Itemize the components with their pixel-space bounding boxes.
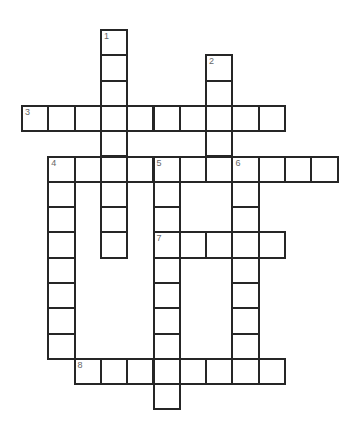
crossword-cell[interactable] <box>179 105 207 132</box>
crossword-cell[interactable] <box>231 257 259 284</box>
crossword-cell[interactable] <box>74 156 102 183</box>
crossword-cell[interactable] <box>47 282 75 309</box>
crossword-cell[interactable] <box>205 80 233 107</box>
crossword-cell[interactable] <box>126 105 154 132</box>
crossword-cell[interactable] <box>179 231 207 258</box>
crossword-cell[interactable] <box>100 206 128 233</box>
crossword-cell[interactable] <box>310 156 338 183</box>
crossword-cell[interactable] <box>126 156 154 183</box>
crossword-cell[interactable]: 2 <box>205 54 233 81</box>
crossword-cell[interactable]: 4 <box>47 156 75 183</box>
crossword-cell[interactable] <box>153 307 181 334</box>
crossword-cell[interactable] <box>231 307 259 334</box>
crossword-cell[interactable] <box>126 358 154 385</box>
clue-number: 3 <box>25 107 30 117</box>
crossword-cell[interactable] <box>258 358 286 385</box>
crossword-cell[interactable] <box>205 156 233 183</box>
crossword-cell[interactable] <box>100 54 128 81</box>
crossword-cell[interactable] <box>205 231 233 258</box>
crossword-cell[interactable] <box>47 206 75 233</box>
crossword-cell[interactable] <box>258 231 286 258</box>
crossword-cell[interactable] <box>100 358 128 385</box>
crossword-cell[interactable] <box>205 358 233 385</box>
crossword-cell[interactable] <box>153 333 181 360</box>
crossword-cell[interactable] <box>258 105 286 132</box>
crossword-cell[interactable]: 3 <box>21 105 49 132</box>
clue-number: 8 <box>78 360 83 370</box>
crossword-cell[interactable] <box>153 383 181 410</box>
crossword-cell[interactable] <box>231 105 259 132</box>
crossword-cell[interactable]: 6 <box>231 156 259 183</box>
crossword-cell[interactable] <box>231 333 259 360</box>
clue-number: 7 <box>157 233 162 243</box>
crossword-cell[interactable] <box>153 105 181 132</box>
crossword-cell[interactable]: 8 <box>74 358 102 385</box>
crossword-cell[interactable] <box>231 231 259 258</box>
crossword-cell[interactable] <box>47 105 75 132</box>
crossword-cell[interactable] <box>100 231 128 258</box>
crossword-cell[interactable] <box>179 358 207 385</box>
crossword-cell[interactable] <box>258 156 286 183</box>
crossword-cell[interactable] <box>47 333 75 360</box>
crossword-cell[interactable] <box>205 105 233 132</box>
crossword-cell[interactable] <box>179 156 207 183</box>
crossword-cell[interactable] <box>153 282 181 309</box>
clue-number: 5 <box>157 158 162 168</box>
crossword-cell[interactable]: 1 <box>100 29 128 56</box>
clue-number: 2 <box>209 56 214 66</box>
crossword-cell[interactable] <box>153 257 181 284</box>
clue-number: 4 <box>51 158 56 168</box>
crossword-cell[interactable] <box>153 358 181 385</box>
crossword-cell[interactable] <box>284 156 312 183</box>
crossword-grid: 12345678 <box>0 0 357 429</box>
crossword-cell[interactable]: 7 <box>153 231 181 258</box>
crossword-cell[interactable] <box>100 105 128 132</box>
crossword-cell[interactable] <box>231 282 259 309</box>
crossword-cell[interactable] <box>47 257 75 284</box>
crossword-cell[interactable] <box>231 206 259 233</box>
crossword-cell[interactable] <box>153 206 181 233</box>
crossword-cell[interactable] <box>231 181 259 208</box>
clue-number: 6 <box>235 158 240 168</box>
crossword-cell[interactable] <box>205 130 233 157</box>
crossword-cell[interactable] <box>47 231 75 258</box>
crossword-cell[interactable] <box>47 181 75 208</box>
crossword-cell[interactable]: 5 <box>153 156 181 183</box>
crossword-cell[interactable] <box>153 181 181 208</box>
crossword-cell[interactable] <box>74 105 102 132</box>
crossword-cell[interactable] <box>100 181 128 208</box>
crossword-cell[interactable] <box>100 80 128 107</box>
crossword-cell[interactable] <box>47 307 75 334</box>
crossword-cell[interactable] <box>100 156 128 183</box>
clue-number: 1 <box>104 31 109 41</box>
crossword-cell[interactable] <box>100 130 128 157</box>
crossword-cell[interactable] <box>231 358 259 385</box>
